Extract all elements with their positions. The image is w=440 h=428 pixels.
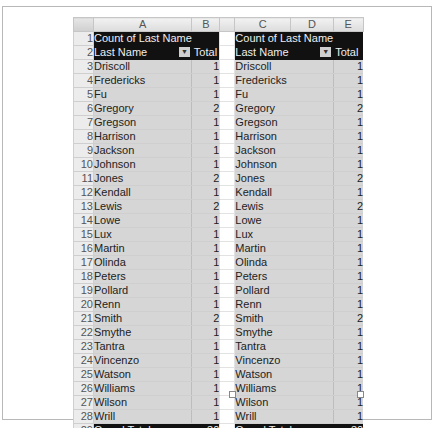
list-item-count[interactable]: 1 [192,186,220,200]
list-item-name[interactable]: Vincenzo [94,354,192,368]
list-item-name[interactable]: Kendall [94,186,192,200]
list-item-name[interactable]: Wrill [94,410,192,424]
empty-cell[interactable] [220,102,235,116]
filter-dropdown-arrow-icon[interactable]: ▼ [179,47,190,57]
pivot-left-row-label-header[interactable]: Last Name▼ [94,46,192,60]
list-item-count[interactable]: 1 [192,270,220,284]
list-item-name[interactable]: Tantra [94,340,192,354]
list-item-name[interactable]: Fu [235,88,333,102]
pivot-right-row-label-header[interactable]: Last Name▼ [235,46,333,60]
list-item-name[interactable]: Martin [94,242,192,256]
list-item-count[interactable]: 1 [333,354,363,368]
list-item-name[interactable]: Lux [235,228,333,242]
row-header[interactable]: 16 [74,242,94,256]
empty-cell[interactable] [220,298,235,312]
row-header[interactable]: 27 [74,396,94,410]
list-item-count[interactable]: 1 [333,228,363,242]
list-item-name[interactable]: Peters [235,270,333,284]
empty-cell[interactable] [220,270,235,284]
list-item-name[interactable]: Lowe [94,214,192,228]
list-item-count[interactable]: 1 [192,396,220,410]
list-item-name[interactable]: Peters [94,270,192,284]
empty-cell[interactable] [220,60,235,74]
row-header[interactable]: 26 [74,382,94,396]
list-item-name[interactable]: Smythe [235,326,333,340]
list-item-name[interactable]: Olinda [235,256,333,270]
list-item-count[interactable]: 1 [192,228,220,242]
list-item-name[interactable]: Olinda [94,256,192,270]
row-header[interactable]: 17 [74,256,94,270]
resize-handle-left[interactable] [229,391,236,398]
list-item-count[interactable]: 2 [192,200,220,214]
list-item-count[interactable]: 1 [333,186,363,200]
list-item-count[interactable]: 2 [333,102,363,116]
list-item-name[interactable]: Johnson [94,158,192,172]
list-item-count[interactable]: 1 [333,74,363,88]
list-item-count[interactable]: 1 [333,340,363,354]
list-item-name[interactable]: Wrill [235,410,333,424]
row-header[interactable]: 12 [74,186,94,200]
list-item-name[interactable]: Renn [235,298,333,312]
select-all-corner[interactable] [74,18,94,32]
empty-cell[interactable] [220,424,235,428]
list-item-count[interactable]: 1 [333,60,363,74]
row-header[interactable]: 14 [74,214,94,228]
row-header[interactable]: 8 [74,130,94,144]
list-item-name[interactable]: Jackson [94,144,192,158]
list-item-count[interactable]: 2 [333,312,363,326]
list-item-count[interactable]: 1 [333,116,363,130]
list-item-name[interactable]: Kendall [235,186,333,200]
row-header[interactable]: 24 [74,354,94,368]
list-item-name[interactable]: Wilson [94,396,192,410]
list-item-name[interactable]: Smythe [94,326,192,340]
list-item-count[interactable]: 1 [192,214,220,228]
row-header[interactable]: 23 [74,340,94,354]
list-item-name[interactable]: Vincenzo [235,354,333,368]
row-header[interactable]: 5 [74,88,94,102]
list-item-name[interactable]: Gregson [235,116,333,130]
empty-cell[interactable] [220,312,235,326]
column-header-a[interactable]: A [94,18,192,32]
list-item-name[interactable]: Watson [94,368,192,382]
list-item-name[interactable]: Pollard [235,284,333,298]
list-item-count[interactable]: 1 [333,88,363,102]
row-header[interactable]: 9 [74,144,94,158]
row-header[interactable]: 7 [74,116,94,130]
empty-cell[interactable] [220,144,235,158]
list-item-count[interactable]: 2 [333,172,363,186]
list-item-count[interactable]: 1 [333,130,363,144]
list-item-count[interactable]: 1 [192,116,220,130]
list-item-count[interactable]: 1 [192,144,220,158]
empty-cell[interactable] [220,326,235,340]
list-item-name[interactable]: Johnson [235,158,333,172]
column-header-c[interactable]: C [235,18,291,32]
list-item-name[interactable]: Lowe [235,214,333,228]
list-item-count[interactable]: 1 [333,270,363,284]
empty-cell[interactable] [220,200,235,214]
list-item-name[interactable]: Harrison [235,130,333,144]
list-item-count[interactable]: 1 [192,158,220,172]
empty-cell[interactable] [220,32,235,46]
empty-cell[interactable] [220,116,235,130]
list-item-count[interactable]: 1 [333,298,363,312]
list-item-count[interactable]: 1 [192,130,220,144]
empty-cell[interactable] [220,46,235,60]
list-item-name[interactable]: Gregory [94,102,192,116]
list-item-name[interactable]: Lux [94,228,192,242]
empty-cell[interactable] [220,410,235,424]
list-item-count[interactable]: 1 [192,60,220,74]
list-item-name[interactable]: Smith [94,312,192,326]
empty-cell[interactable] [220,88,235,102]
list-item-name[interactable]: Renn [94,298,192,312]
row-header[interactable]: 1 [74,32,94,46]
list-item-count[interactable]: 1 [192,256,220,270]
row-header[interactable]: 2 [74,46,94,60]
empty-cell[interactable] [220,186,235,200]
empty-cell[interactable] [220,228,235,242]
list-item-count[interactable]: 1 [333,410,363,424]
list-item-name[interactable]: Jackson [235,144,333,158]
resize-handle-right[interactable] [357,391,364,398]
row-header[interactable]: 10 [74,158,94,172]
empty-cell[interactable] [220,172,235,186]
list-item-name[interactable]: Fredericks [94,74,192,88]
